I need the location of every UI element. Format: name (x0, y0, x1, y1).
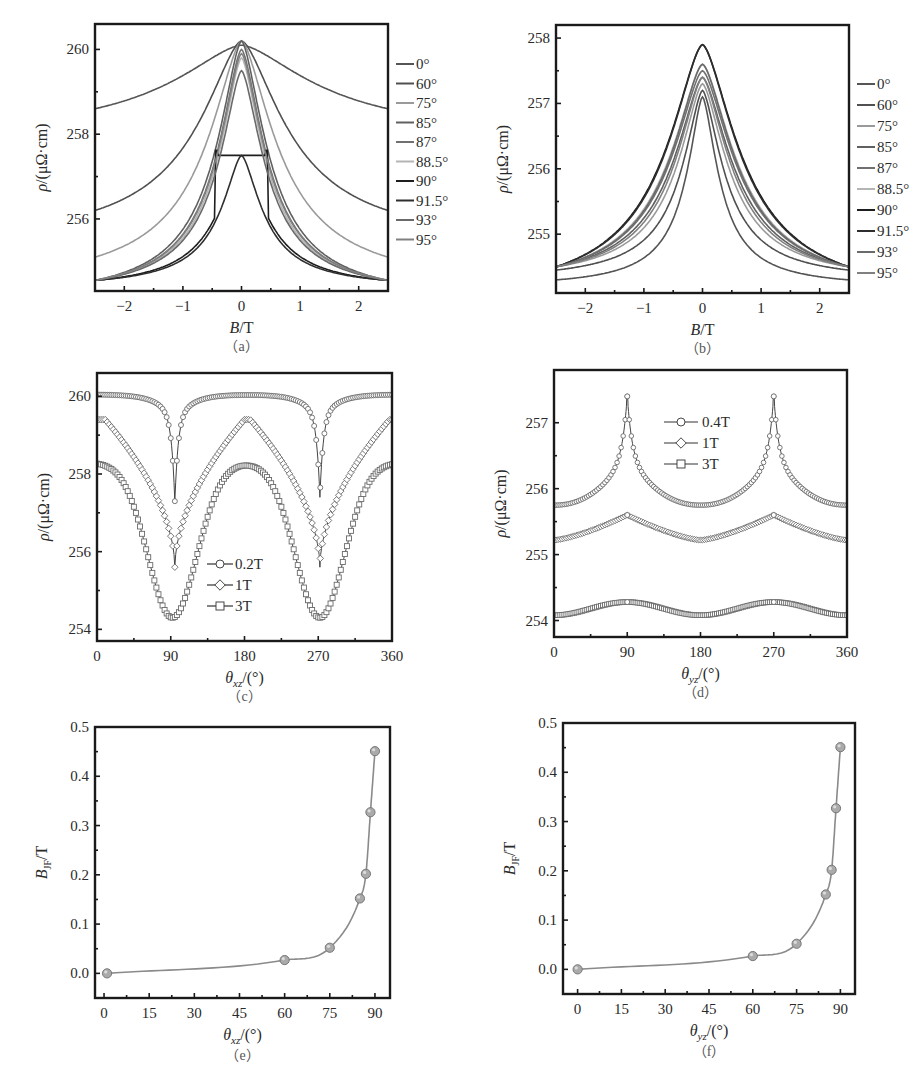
x-tick-label: 60 (745, 1001, 760, 1017)
panel-caption: （a） (224, 339, 258, 354)
y-axis-label: BJF/T (33, 846, 53, 880)
y-tick-label: 254 (526, 613, 549, 629)
legend-item: 0° (396, 56, 430, 72)
data-point-highlight (575, 966, 578, 969)
legend-label: 91.5° (416, 193, 448, 209)
series-1T (94, 416, 396, 570)
series-line-90deg (95, 150, 388, 280)
data-point (280, 955, 289, 964)
data-point-highlight (282, 957, 285, 960)
x-tick-label: 90 (163, 648, 178, 664)
chart-f-jump-field-vs-angle-yz: 01530456075900.00.10.20.30.40.5θyz/(°)BJ… (460, 705, 923, 1086)
legend-label: 95° (877, 265, 898, 281)
x-tick-label: 0 (93, 648, 101, 664)
data-point (792, 939, 801, 948)
data-point-highlight (750, 953, 753, 956)
y-axis-label: ρ/(μΩ·cm) (33, 123, 51, 192)
x-tick-label: 30 (658, 1001, 673, 1017)
legend-item: 91.5° (857, 223, 909, 239)
y-tick-label: 258 (528, 30, 551, 46)
y-tick-label: 0.1 (538, 912, 557, 928)
x-tick-label: 270 (763, 644, 786, 660)
x-tick-label: 1 (296, 298, 304, 314)
data-point-highlight (363, 871, 366, 874)
x-tick-label: −1 (636, 300, 652, 316)
y-tick-label: 258 (69, 466, 92, 482)
plot-area (556, 45, 849, 280)
chart-d-resistivity-vs-angle-yz: 090180270360254255256257θyz/(°)ρ/(μΩ·cm)… (460, 360, 923, 705)
y-tick-label: 0.3 (538, 814, 557, 830)
y-tick-label: 260 (67, 41, 90, 57)
data-point-highlight (104, 970, 107, 973)
data-point-highlight (833, 805, 836, 808)
legend-item: 88.5° (857, 181, 909, 197)
data-point (370, 747, 379, 756)
series-line-95deg (556, 77, 849, 267)
legend-label: 0.4T (702, 414, 730, 430)
panel-b: −2−1012255256257258B/Tρ/(μΩ·cm)（b）0°60°7… (460, 0, 923, 360)
x-tick-label: 90 (620, 644, 635, 660)
x-tick-label: 60 (277, 1005, 292, 1021)
plot-frame (563, 723, 855, 994)
legend-item: 75° (857, 118, 898, 134)
y-tick-label: 257 (528, 95, 551, 111)
legend: 0°60°75°85°87°88.5°90°91.5°93°95° (396, 56, 448, 248)
y-tick-label: 0.4 (70, 768, 89, 784)
x-axis-label: θyz/(°) (690, 1022, 729, 1042)
chart-b-resistivity-vs-field-yz: −2−1012255256257258B/Tρ/(μΩ·cm)（b）0°60°7… (460, 0, 923, 360)
legend-label: 85° (416, 115, 437, 131)
y-axis-label: BJF/T (501, 842, 521, 876)
y-tick-label: 0.4 (538, 764, 557, 780)
series-1T (551, 512, 850, 543)
data-point (325, 943, 334, 952)
panel-caption: （b） (685, 341, 720, 356)
legend-item: 60° (396, 76, 437, 92)
legend-item: 75° (396, 95, 437, 111)
series-line-87deg (95, 49, 388, 280)
panel-e: 01530456075900.00.10.20.30.40.5θxz/(°)BJ… (0, 705, 460, 1086)
y-tick-label: 0.0 (70, 965, 89, 981)
series-line-93deg (556, 64, 849, 267)
legend-item: 90° (857, 202, 898, 218)
x-tick-label: 0 (100, 1005, 108, 1021)
fit-line (578, 747, 841, 969)
x-axis-label: θxz/(°) (225, 669, 264, 689)
data-point (831, 804, 840, 813)
y-tick-label: 258 (67, 126, 90, 142)
y-tick-label: 0.5 (70, 719, 89, 735)
panel-caption: （e） (225, 1048, 259, 1063)
chart-e-jump-field-vs-angle-xz: 01530456075900.00.10.20.30.40.5θxz/(°)BJ… (0, 705, 460, 1086)
legend-item: 1T (664, 435, 719, 451)
legend-item: 87° (396, 134, 437, 150)
legend-item: 95° (396, 232, 437, 248)
series-line-88.5deg (95, 58, 388, 281)
series-line-85deg (95, 41, 388, 280)
series-line-93deg (95, 71, 388, 281)
legend-item: 0° (857, 76, 891, 92)
legend-label: 91.5° (877, 223, 909, 239)
legend-label: 75° (416, 95, 437, 111)
y-tick-label: 254 (69, 621, 92, 637)
legend-label: 75° (877, 118, 898, 134)
data-point (366, 808, 375, 817)
plot-area (573, 743, 845, 974)
y-tick-label: 0.0 (538, 961, 557, 977)
data-point (102, 969, 111, 978)
data-point (836, 743, 845, 752)
legend-item: 60° (857, 97, 898, 113)
y-axis-label: ρ/(μΩ·cm) (494, 125, 512, 194)
x-tick-label: 15 (614, 1001, 629, 1017)
series-line-85deg (556, 77, 849, 267)
legend-label: 93° (877, 244, 898, 260)
x-tick-label: 180 (689, 644, 712, 660)
x-tick-label: 270 (307, 648, 330, 664)
y-tick-label: 256 (528, 161, 551, 177)
data-point-highlight (357, 895, 360, 898)
x-axis-label: B/T (230, 319, 254, 336)
legend-label: 0.2T (235, 556, 263, 572)
plot-frame (95, 727, 390, 998)
y-tick-label: 0.5 (538, 715, 557, 731)
legend-label: 93° (416, 212, 437, 228)
y-tick-label: 255 (526, 547, 549, 563)
y-tick-label: 256 (69, 544, 92, 560)
